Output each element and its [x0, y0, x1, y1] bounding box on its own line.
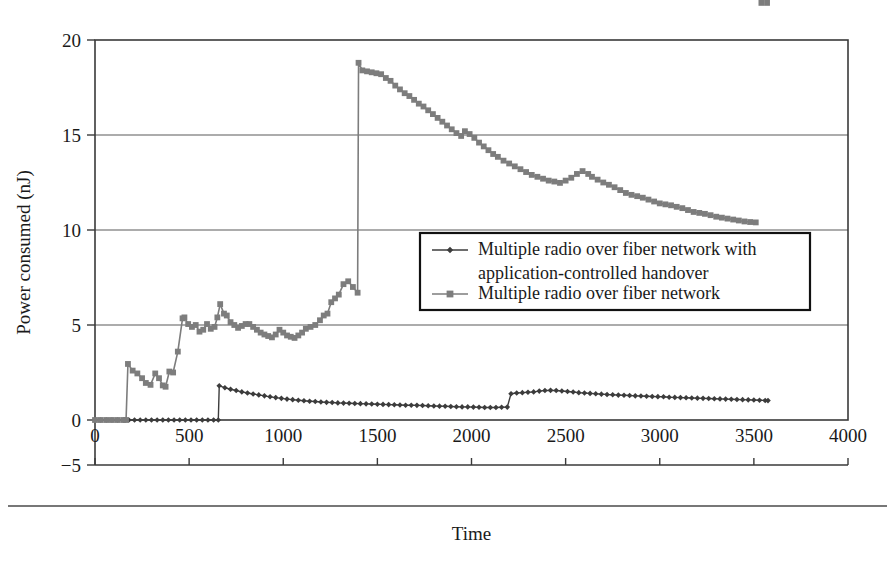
series-1-point: [740, 397, 746, 403]
series-1-point: [717, 396, 723, 402]
series-1-point: [448, 404, 454, 410]
series-2-point: [557, 180, 563, 186]
series-1-point: [143, 417, 149, 423]
series-1-point: [689, 395, 695, 401]
y-axis-title: Power consumed (nJ): [13, 170, 35, 335]
series-1-point: [593, 391, 599, 397]
series-2-point: [685, 207, 691, 213]
series-1-point: [369, 401, 375, 407]
y-tick-label-15: 15: [62, 125, 81, 146]
series-2-point: [518, 166, 524, 172]
series-1: [92, 383, 771, 423]
series-2-point: [345, 278, 351, 284]
x-tick-label-1500: 1500: [358, 425, 396, 446]
legend-marker-square-icon: [447, 291, 454, 298]
series-2-point: [580, 168, 586, 174]
series-1-point: [239, 389, 245, 395]
series-2-point: [764, 0, 770, 6]
series-1-point: [312, 399, 318, 405]
series-1-point: [604, 392, 610, 398]
series-2-point: [325, 311, 331, 317]
series-1-point: [363, 401, 369, 407]
line-chart: 05001000150020002500300035004000 −505101…: [0, 0, 895, 567]
series-1-point: [482, 405, 488, 411]
series-2-point: [546, 178, 552, 184]
series-2-point: [98, 417, 104, 423]
series-2-point: [708, 212, 714, 218]
axis-titles: Time Power consumed (nJ): [13, 170, 491, 544]
series-2-point: [212, 324, 218, 330]
series-1-point: [454, 404, 460, 410]
series-2-point: [109, 417, 115, 423]
series-1-point: [200, 417, 206, 423]
y-tick-label-20: 20: [62, 30, 81, 51]
series-1-point: [525, 389, 531, 395]
series-1-point: [757, 397, 763, 403]
series-1-point: [290, 397, 296, 403]
series-2-point: [103, 417, 109, 423]
series-2-point: [600, 180, 606, 186]
series-2-point: [217, 301, 223, 307]
series-1-point: [700, 396, 706, 402]
series-1-point: [420, 403, 426, 409]
series-2-point: [92, 417, 98, 423]
series-2-point: [563, 178, 569, 184]
series-1-point: [352, 401, 358, 407]
series-2-point: [170, 370, 176, 376]
legend-label-1: Multiple radio over fiber network with: [478, 239, 756, 259]
series-1-point: [616, 392, 622, 398]
series-1-point: [661, 394, 667, 400]
series-2-point: [551, 179, 557, 185]
series-1-point: [476, 404, 482, 410]
series-1-point: [335, 400, 341, 406]
x-tick-marks: [95, 458, 848, 465]
x-tick-label-4000: 4000: [829, 425, 867, 446]
series-2-point: [629, 192, 635, 198]
series-2-point: [200, 327, 206, 333]
series-1-point: [508, 391, 514, 397]
series-1-point: [216, 417, 222, 423]
series-2-point: [657, 201, 663, 207]
x-tick-label-0: 0: [90, 425, 100, 446]
series-2-point: [719, 215, 725, 221]
x-tick-label-3000: 3000: [641, 425, 679, 446]
series-1-point: [431, 403, 437, 409]
legend[interactable]: Multiple radio over fiber network withap…: [420, 233, 810, 310]
series-1-point: [414, 403, 420, 409]
series-1-point: [154, 417, 160, 423]
series-1-point: [329, 400, 335, 406]
series-2-point: [182, 315, 188, 321]
series-2-point: [713, 214, 719, 220]
x-tick-labels: 05001000150020002500300035004000: [90, 425, 867, 446]
series-1-point: [683, 395, 689, 401]
series-2-point: [224, 313, 230, 319]
series-1-point: [627, 393, 633, 399]
series-2-point: [679, 205, 685, 211]
series-1-point: [678, 395, 684, 401]
series-2-point: [512, 163, 518, 169]
series-2-point: [606, 182, 612, 188]
series-2-point: [193, 322, 199, 328]
series-1-point: [488, 405, 494, 411]
series-1-point: [386, 402, 392, 408]
series-1-point: [397, 402, 403, 408]
series-1-point: [695, 395, 701, 401]
series-1-point: [346, 400, 352, 406]
series-2-point: [595, 177, 601, 183]
series-line-1: [95, 386, 768, 420]
series-1-point: [262, 393, 268, 399]
y-tick-labels: −505101520: [61, 30, 81, 476]
series-1-point: [205, 417, 211, 423]
series-1-point: [542, 388, 548, 394]
series-1-point: [723, 396, 729, 402]
series-2-point: [668, 202, 674, 208]
series-2-point: [355, 290, 361, 296]
series-2-point: [674, 204, 680, 210]
series-1-point: [565, 389, 571, 395]
x-tick-label-3500: 3500: [735, 425, 773, 446]
y-tick-label-5: 5: [72, 315, 82, 336]
series-1-point: [408, 402, 414, 408]
series-2-point: [747, 219, 753, 225]
series-2-point: [742, 219, 748, 225]
series-1-point: [587, 391, 593, 397]
